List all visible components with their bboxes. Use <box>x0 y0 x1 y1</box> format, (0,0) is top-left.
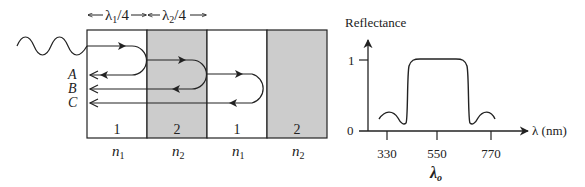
x-axis-label: λ (nm) <box>532 123 567 138</box>
ray-label-a: A <box>67 67 77 82</box>
ray-label-b: B <box>68 81 77 96</box>
incident-wave <box>17 37 87 55</box>
layer-number-2b: 2 <box>294 122 301 137</box>
figure: λ1/4 λ2/4 A B C 1 2 1 2 n1 n2 n1 n2 Refl… <box>0 0 585 187</box>
y-tick-label-0: 0 <box>347 123 354 138</box>
reflectance-chart: Reflectance 1 0 330 550 770 λ (nm) λo <box>345 15 567 183</box>
x-tick-label-550: 550 <box>427 146 447 161</box>
index-label-1a: n1 <box>112 143 125 161</box>
x-tick-label-770: 770 <box>481 146 501 161</box>
x-tick-label-330: 330 <box>377 146 397 161</box>
index-label-1b: n1 <box>232 143 245 161</box>
y-axis-label: Reflectance <box>345 15 407 30</box>
index-label-2a: n2 <box>172 143 185 161</box>
layer-number-2a: 2 <box>174 122 181 137</box>
dim-label-1: λ1/4 <box>105 7 129 25</box>
layer-number-1b: 1 <box>234 122 241 137</box>
reflectance-curve <box>379 59 495 124</box>
index-label-2b: n2 <box>292 143 305 161</box>
center-wavelength-label: λo <box>429 164 442 183</box>
ray-label-c: C <box>68 95 78 110</box>
dim-label-2: λ2/4 <box>162 7 186 25</box>
layer-number-1a: 1 <box>114 122 121 137</box>
y-tick-label-1: 1 <box>348 53 355 68</box>
